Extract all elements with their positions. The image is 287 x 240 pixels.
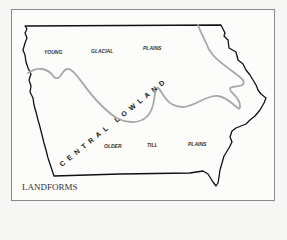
older-till-plains-label: OLDER TILL PLAINS (104, 141, 207, 149)
svg-text:TILL: TILL (147, 142, 158, 148)
svg-text:GLACIAL: GLACIAL (91, 48, 113, 54)
svg-text:OLDER: OLDER (104, 143, 122, 149)
svg-text:YOUNG: YOUNG (44, 49, 62, 55)
young-glacial-plains-label: YOUNG GLACIAL PLAINS (44, 45, 162, 55)
svg-text:PLAINS: PLAINS (143, 45, 162, 51)
svg-text:PLAINS: PLAINS (188, 141, 207, 147)
map-caption: LANDFORMS (22, 182, 78, 192)
central-lowland-label: CENTRAL LOWLAND (58, 76, 169, 168)
